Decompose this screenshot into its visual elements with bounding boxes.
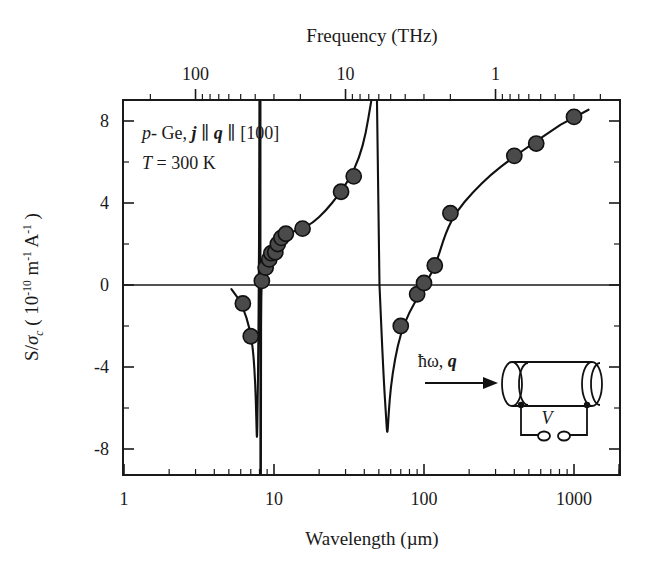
chart-svg: Frequency (THz) Wavelength (µm) S/σc ( 1… [0, 0, 645, 575]
beam-arrow-icon [425, 377, 498, 389]
data-point-marker [427, 258, 442, 273]
top-axis-ticks [150, 89, 600, 100]
bottom-axis-ticks [124, 464, 619, 475]
data-point-marker [243, 329, 258, 344]
left-tick-label: 4 [100, 193, 109, 213]
data-point-marker [393, 318, 408, 333]
data-point-marker [507, 148, 522, 163]
temperature-annotation: T = 300 K [142, 153, 216, 173]
annot-temp-value: = 300 K [152, 153, 216, 173]
experiment-geometry-inset: ħω, q [418, 351, 602, 441]
yaxis-part-main: S/ [21, 344, 42, 361]
data-point-marker [333, 184, 348, 199]
bottom-axis-tick-labels: 1101001000 [120, 489, 593, 509]
annot-material-dash: - Ge, [151, 123, 191, 143]
top-axis-title: Frequency (THz) [306, 25, 437, 47]
sample-cylinder-icon [502, 362, 602, 406]
yaxis-part-exp3: -1 [21, 224, 33, 234]
data-point-marker [235, 296, 250, 311]
data-point-marker [278, 226, 293, 241]
inset-hbar-omega: ħω, [418, 351, 448, 371]
voltage-contacts-icon [518, 402, 590, 441]
left-tick-label: 8 [100, 111, 109, 131]
svg-text:S/σc ( 10-10 m-1 A-1 ): S/σc ( 10-10 m-1 A-1 ) [21, 213, 45, 361]
bottom-tick-label: 10 [265, 489, 283, 509]
annot-parallel-2: ∥ [223, 123, 240, 143]
top-tick-label: 1 [491, 64, 500, 84]
top-tick-label: 10 [337, 64, 355, 84]
bottom-tick-label: 100 [411, 489, 438, 509]
yaxis-part-exp2: -1 [21, 251, 33, 261]
inset-beam-label: ħω, q [418, 351, 457, 371]
figure-container: Frequency (THz) Wavelength (µm) S/σc ( 1… [0, 0, 645, 575]
top-tick-label: 100 [182, 64, 209, 84]
left-tick-label: -8 [94, 439, 109, 459]
top-axis-tick-labels: 100101 [182, 64, 500, 84]
data-point-marker [443, 206, 458, 221]
left-tick-label: -4 [94, 357, 109, 377]
yaxis-part-close: ) [21, 213, 43, 224]
left-axis-tick-labels: 840-4-8 [94, 111, 109, 459]
yaxis-part-exp1: -10 [21, 280, 33, 296]
data-point-marker [529, 136, 544, 151]
data-point-marker [346, 169, 361, 184]
bottom-axis-title: Wavelength (µm) [305, 528, 438, 550]
data-point-marker [416, 275, 431, 290]
bottom-tick-label: 1 [120, 489, 129, 509]
annot-material-prefix: p [140, 123, 151, 143]
yaxis-part-unit1: m [21, 261, 42, 281]
left-tick-label: 0 [100, 275, 109, 295]
inset-q-symbol: q [448, 351, 457, 371]
annot-parallel-1: ∥ [197, 123, 214, 143]
annot-wavevector-symbol: q [214, 123, 223, 143]
yaxis-part-open: ( 10 [21, 296, 43, 331]
bottom-tick-label: 1000 [556, 489, 592, 509]
data-point-marker [566, 109, 581, 124]
data-point-marker [295, 221, 310, 236]
data-point-markers [235, 109, 581, 344]
annot-direction: [100] [240, 123, 279, 143]
left-axis-title: S/σc ( 10-10 m-1 A-1 ) [21, 213, 45, 361]
inset-voltage-label: V [542, 408, 555, 428]
yaxis-part-unit2: A [21, 234, 42, 252]
sample-annotation: p- Ge, j ∥ q ∥ [100] [140, 123, 279, 143]
